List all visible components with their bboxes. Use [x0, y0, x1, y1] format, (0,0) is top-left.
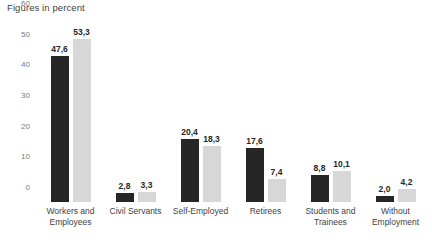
- bar[interactable]: [311, 175, 329, 202]
- bar[interactable]: [268, 179, 286, 202]
- bar-value-label: 2,8: [119, 182, 131, 191]
- bar[interactable]: [73, 39, 91, 202]
- y-axis: 0 10 20 30 40 50 60: [0, 18, 34, 202]
- bar-column: 4,2: [398, 18, 416, 202]
- x-axis-category-label: Workers andEmployees: [40, 205, 102, 243]
- bar-value-label: 20,4: [181, 128, 198, 137]
- x-axis-category-label: Retirees: [235, 205, 297, 243]
- y-axis-tick: 20: [21, 123, 30, 131]
- bar-group: 8,810,1: [300, 18, 362, 202]
- y-axis-tick: 0: [26, 184, 30, 192]
- bar-column: 3,3: [138, 18, 156, 202]
- bar[interactable]: [51, 56, 69, 202]
- x-axis-category-label: Civil Servants: [105, 205, 167, 243]
- y-axis-tick: 10: [21, 153, 30, 161]
- bar-column: 2,8: [116, 18, 134, 202]
- bar[interactable]: [376, 196, 394, 202]
- bar-value-label: 7,4: [271, 168, 283, 177]
- bar-group: 20,418,3: [170, 18, 232, 202]
- bar[interactable]: [181, 139, 199, 202]
- bar[interactable]: [333, 171, 351, 202]
- bar[interactable]: [398, 189, 416, 202]
- bar-value-label: 4,2: [401, 178, 413, 187]
- bar[interactable]: [246, 148, 264, 202]
- bar-group: 47,653,3: [40, 18, 102, 202]
- bar-column: 10,1: [333, 18, 351, 202]
- plot-area: 47,653,32,83,320,418,317,67,48,810,12,04…: [38, 18, 428, 202]
- x-axis-category-label: Students andTrainees: [300, 205, 362, 243]
- y-axis-tick: 50: [21, 31, 30, 39]
- x-axis-labels: Workers andEmployeesCivil ServantsSelf-E…: [38, 205, 428, 243]
- y-axis-tick: 60: [21, 0, 30, 8]
- y-axis-tick: 40: [21, 61, 30, 69]
- bar-value-label: 10,1: [333, 160, 350, 169]
- x-axis-category-label: WithoutEmployment: [365, 205, 427, 243]
- bar-value-label: 53,3: [73, 28, 90, 37]
- bar-column: 47,6: [51, 18, 69, 202]
- bar-column: 2,0: [376, 18, 394, 202]
- bar-column: 7,4: [268, 18, 286, 202]
- bar-value-label: 3,3: [141, 181, 153, 190]
- bar-group: 2,83,3: [105, 18, 167, 202]
- bar-value-label: 47,6: [51, 45, 68, 54]
- bar-value-label: 17,6: [246, 137, 263, 146]
- bar-value-label: 2,0: [379, 185, 391, 194]
- bar-column: 18,3: [203, 18, 221, 202]
- bar[interactable]: [203, 146, 221, 202]
- bar-column: 17,6: [246, 18, 264, 202]
- bar-column: 20,4: [181, 18, 199, 202]
- bar[interactable]: [116, 193, 134, 202]
- bar-value-label: 18,3: [203, 135, 220, 144]
- bar-value-label: 8,8: [314, 164, 326, 173]
- bar[interactable]: [138, 192, 156, 202]
- bar-group: 17,67,4: [235, 18, 297, 202]
- y-axis-tick: 30: [21, 92, 30, 100]
- chart-title: Figures in percent: [7, 2, 85, 13]
- bar-chart: Figures in percent 0 10 20 30 40 50 60 4…: [0, 0, 432, 244]
- x-axis-category-label: Self-Employed: [170, 205, 232, 243]
- bar-column: 8,8: [311, 18, 329, 202]
- bar-column: 53,3: [73, 18, 91, 202]
- bar-group: 2,04,2: [365, 18, 427, 202]
